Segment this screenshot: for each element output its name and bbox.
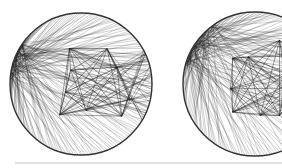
bottom-divider [15, 162, 282, 164]
right-circle [183, 12, 282, 156]
left-circle [10, 13, 152, 155]
string-art-canvas [0, 0, 282, 168]
